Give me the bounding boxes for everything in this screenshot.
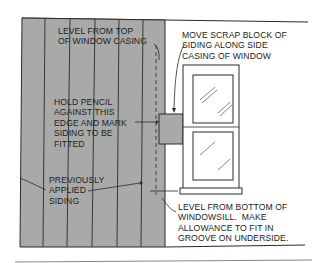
bottom-rule xyxy=(15,260,312,262)
window xyxy=(180,65,242,194)
scrap-block xyxy=(159,114,183,144)
label-level-top: LEVEL FROM TOPOF WINDOW CASING xyxy=(58,26,147,47)
siding-diagram: LEVEL FROM TOPOF WINDOW CASING MOVE SCRA… xyxy=(0,0,321,263)
label-hold-pencil: HOLD PENCILAGAINST THISEDGE AND MARKSIDI… xyxy=(54,97,127,149)
label-level-bottom: LEVEL FROM BOTTOM OFWINDOWSILL. MAKEALLO… xyxy=(178,202,288,244)
label-move-scrap: MOVE SCRAP BLOCK OFSIDING ALONG SIDECASI… xyxy=(182,30,287,61)
label-previously-applied: PREVIOUSLYAPPLIEDSIDING xyxy=(49,175,104,206)
